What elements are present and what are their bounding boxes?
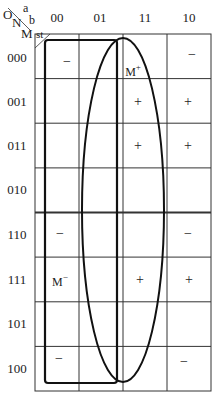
var-o-label: O bbox=[3, 7, 12, 22]
cell-values: − − M+ + + + + − − M− + + − − bbox=[52, 47, 196, 369]
row-headers: 000 001 011 010 110 111 101 100 bbox=[7, 50, 27, 376]
row-header: 001 bbox=[7, 94, 27, 109]
corner-header: O a N b M st bbox=[3, 1, 50, 48]
cell-minus: − bbox=[180, 354, 188, 369]
column-header: 10 bbox=[183, 10, 196, 25]
cell-minus: − bbox=[55, 351, 63, 366]
var-b-label: b bbox=[29, 13, 35, 27]
cell-plus: + bbox=[134, 94, 142, 109]
cell-plus: + bbox=[136, 272, 144, 287]
column-header: 11 bbox=[139, 10, 152, 25]
cell-minus: − bbox=[56, 226, 64, 241]
cell-plus: + bbox=[134, 138, 142, 153]
cell-minus: − bbox=[63, 54, 71, 69]
karnaugh-map: O a N b M st 00 01 11 10 000 001 011 010… bbox=[0, 0, 214, 399]
cell-plus: + bbox=[184, 138, 192, 153]
map-grid bbox=[35, 34, 211, 391]
row-header: 110 bbox=[7, 227, 26, 242]
var-st-label: st bbox=[36, 28, 43, 40]
row-header: 010 bbox=[7, 182, 27, 197]
column-header: 00 bbox=[51, 10, 64, 25]
m-plus-label: M+ bbox=[125, 62, 141, 79]
cell-plus: + bbox=[184, 94, 192, 109]
row-header: 011 bbox=[7, 138, 26, 153]
var-m-label: M bbox=[21, 26, 33, 41]
cell-minus: − bbox=[184, 226, 192, 241]
m-minus-label: M− bbox=[52, 272, 68, 289]
cell-minus: − bbox=[188, 47, 196, 62]
row-header: 101 bbox=[7, 316, 27, 331]
row-header: 100 bbox=[7, 361, 27, 376]
row-header: 000 bbox=[7, 50, 27, 65]
cell-plus: + bbox=[185, 272, 193, 287]
column-headers: 00 01 11 10 bbox=[51, 10, 196, 25]
column-header: 01 bbox=[94, 10, 107, 25]
row-header: 111 bbox=[8, 272, 27, 287]
